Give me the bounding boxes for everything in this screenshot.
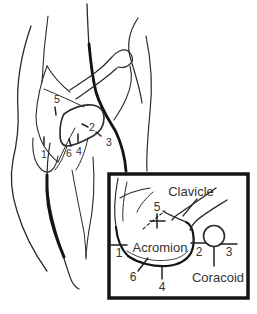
arm-right-inner-line — [86, 157, 94, 259]
acromion-label: Acromion — [133, 240, 188, 255]
main-landmark-2-label: 2 — [89, 121, 95, 133]
arm-mid-line — [72, 170, 86, 257]
neck-right-line — [129, 18, 142, 103]
main-landmark-3-label: 3 — [106, 136, 112, 148]
main-landmark-1-label: 1 — [41, 148, 47, 160]
scapula-superior-border — [47, 66, 70, 92]
inset-landmark-1-label: 1 — [116, 246, 123, 260]
inset-landmark-2-label: 2 — [196, 245, 203, 259]
coracoid-label: Coracoid — [192, 270, 244, 285]
shoulder-illustration-page: 5 1 6 4 2 3 — [0, 0, 257, 314]
scapula-medial-border — [36, 66, 58, 162]
axillary-fold-bold-segment — [47, 175, 64, 257]
shoulder-joint-outline — [60, 105, 104, 146]
main-landmark-6-label: 6 — [66, 147, 72, 159]
main-landmark-5-label: 5 — [54, 93, 60, 105]
landmark-5-tick — [55, 107, 56, 115]
axillary-fold-line — [47, 143, 79, 289]
deltoid-front-line — [114, 66, 131, 120]
clavicle-upper-edge — [70, 50, 132, 90]
clavicle-label: Clavicle — [168, 184, 214, 199]
inset-landmark-3-label: 3 — [226, 245, 233, 259]
inset-landmark-5-label: 5 — [154, 200, 161, 214]
spine-midline-bold-segment — [89, 44, 126, 171]
inset-detail: Clavicle Acromion Coracoid 1 2 3 4 5 6 — [109, 174, 248, 298]
landmark-2-tick — [82, 124, 88, 127]
inset-landmark-6-label: 6 — [130, 270, 137, 284]
shoulder-illustration: 5 1 6 4 2 3 — [0, 0, 257, 314]
main-landmark-4-label: 4 — [76, 145, 82, 157]
arm-right-outline — [146, 36, 151, 171]
inset-landmark-4-label: 4 — [159, 280, 166, 294]
landmark-6-tick — [69, 139, 71, 146]
